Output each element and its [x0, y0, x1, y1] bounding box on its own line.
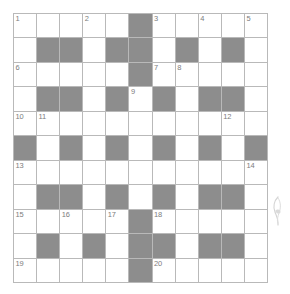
crossword-cell-r1-c0[interactable] — [14, 38, 36, 61]
crossword-cell-r0-c10[interactable]: 5 — [245, 14, 267, 37]
crossword-cell-r8-c9[interactable] — [222, 210, 244, 233]
crossword-cell-r3-c5[interactable]: 9 — [129, 87, 151, 110]
crossword-cell-r4-c5[interactable] — [129, 112, 151, 135]
crossword-cell-r6-c9[interactable] — [222, 161, 244, 184]
crossword-cell-r10-c8[interactable] — [199, 259, 221, 282]
crossword-cell-r2-c9[interactable] — [222, 63, 244, 86]
crossword-cell-r0-c0[interactable]: 1 — [14, 14, 36, 37]
crossword-cell-r6-c5[interactable] — [129, 161, 151, 184]
crossword-block-cell-r5-c4 — [106, 136, 128, 159]
crossword-cell-r6-c4[interactable] — [106, 161, 128, 184]
clue-number-16: 16 — [62, 210, 70, 219]
crossword-block-cell-r2-c5 — [129, 63, 151, 86]
crossword-cell-r6-c6[interactable] — [153, 161, 175, 184]
crossword-cell-r5-c7[interactable] — [176, 136, 198, 159]
crossword-cell-r10-c1[interactable] — [37, 259, 59, 282]
crossword-cell-r10-c9[interactable] — [222, 259, 244, 282]
crossword-cell-r8-c10[interactable] — [245, 210, 267, 233]
crossword-cell-r0-c3[interactable]: 2 — [83, 14, 105, 37]
crossword-cell-r4-c2[interactable] — [60, 112, 82, 135]
crossword-block-cell-r9-c5 — [129, 234, 151, 257]
crossword-cell-r4-c9[interactable]: 12 — [222, 112, 244, 135]
crossword-cell-r0-c4[interactable] — [106, 14, 128, 37]
clue-number-11: 11 — [39, 112, 46, 121]
crossword-cell-r4-c7[interactable] — [176, 112, 198, 135]
crossword-cell-r3-c3[interactable] — [83, 87, 105, 110]
crossword-cell-r2-c2[interactable] — [60, 63, 82, 86]
crossword-cell-r8-c0[interactable]: 15 — [14, 210, 36, 233]
crossword-cell-r5-c3[interactable] — [83, 136, 105, 159]
crossword-cell-r1-c8[interactable] — [199, 38, 221, 61]
crossword-cell-r7-c3[interactable] — [83, 185, 105, 208]
crossword-cell-r10-c2[interactable] — [60, 259, 82, 282]
crossword-cell-r2-c6[interactable]: 7 — [153, 63, 175, 86]
crossword-cell-r4-c3[interactable] — [83, 112, 105, 135]
crossword-cell-r8-c6[interactable]: 18 — [153, 210, 175, 233]
crossword-grid[interactable]: 1234567891011121314151617181920 — [13, 13, 268, 283]
crossword-cell-r7-c0[interactable] — [14, 185, 36, 208]
crossword-cell-r5-c5[interactable] — [129, 136, 151, 159]
crossword-cell-r2-c4[interactable] — [106, 63, 128, 86]
crossword-cell-r0-c7[interactable] — [176, 14, 198, 37]
crossword-cell-r10-c3[interactable] — [83, 259, 105, 282]
crossword-cell-r9-c4[interactable] — [106, 234, 128, 257]
crossword-cell-r2-c3[interactable] — [83, 63, 105, 86]
crossword-cell-r9-c2[interactable] — [60, 234, 82, 257]
crossword-cell-r1-c10[interactable] — [245, 38, 267, 61]
crossword-cell-r8-c7[interactable] — [176, 210, 198, 233]
crossword-cell-r6-c10[interactable]: 14 — [245, 161, 267, 184]
crossword-cell-r0-c1[interactable] — [37, 14, 59, 37]
crossword-cell-r7-c5[interactable] — [129, 185, 151, 208]
crossword-cell-r2-c8[interactable] — [199, 63, 221, 86]
crossword-cell-r9-c0[interactable] — [14, 234, 36, 257]
crossword-cell-r1-c6[interactable] — [153, 38, 175, 61]
crossword-cell-r3-c10[interactable] — [245, 87, 267, 110]
crossword-cell-r3-c0[interactable] — [14, 87, 36, 110]
clue-number-10: 10 — [16, 112, 24, 121]
crossword-cell-r8-c2[interactable]: 16 — [60, 210, 82, 233]
crossword-cell-r4-c1[interactable]: 11 — [37, 112, 59, 135]
crossword-cell-r7-c7[interactable] — [176, 185, 198, 208]
crossword-cell-r2-c1[interactable] — [37, 63, 59, 86]
crossword-block-cell-r0-c5 — [129, 14, 151, 37]
crossword-cell-r0-c9[interactable] — [222, 14, 244, 37]
crossword-cell-r8-c4[interactable]: 17 — [106, 210, 128, 233]
crossword-cell-r6-c2[interactable] — [60, 161, 82, 184]
crossword-cell-r4-c0[interactable]: 10 — [14, 112, 36, 135]
crossword-cell-r10-c7[interactable] — [176, 259, 198, 282]
crossword-block-cell-r5-c6 — [153, 136, 175, 159]
crossword-cell-r8-c1[interactable] — [37, 210, 59, 233]
crossword-cell-r6-c1[interactable] — [37, 161, 59, 184]
crossword-cell-r10-c6[interactable]: 20 — [153, 259, 175, 282]
crossword-cell-r6-c8[interactable] — [199, 161, 221, 184]
crossword-cell-r8-c3[interactable] — [83, 210, 105, 233]
crossword-cell-r6-c3[interactable] — [83, 161, 105, 184]
crossword-cell-r1-c3[interactable] — [83, 38, 105, 61]
crossword-cell-r4-c6[interactable] — [153, 112, 175, 135]
crossword-cell-r2-c0[interactable]: 6 — [14, 63, 36, 86]
crossword-block-cell-r1-c9 — [222, 38, 244, 61]
crossword-puzzle-page: 1234567891011121314151617181920 — [0, 0, 290, 294]
crossword-cell-r6-c0[interactable]: 13 — [14, 161, 36, 184]
crossword-cell-r3-c7[interactable] — [176, 87, 198, 110]
crossword-cell-r8-c8[interactable] — [199, 210, 221, 233]
crossword-cell-r7-c10[interactable] — [245, 185, 267, 208]
crossword-cell-r4-c10[interactable] — [245, 112, 267, 135]
crossword-block-cell-r3-c6 — [153, 87, 175, 110]
crossword-cell-r10-c0[interactable]: 19 — [14, 259, 36, 282]
crossword-cell-r9-c10[interactable] — [245, 234, 267, 257]
crossword-cell-r10-c4[interactable] — [106, 259, 128, 282]
crossword-cell-r0-c8[interactable]: 4 — [199, 14, 221, 37]
crossword-cell-r5-c1[interactable] — [37, 136, 59, 159]
crossword-cell-r4-c4[interactable] — [106, 112, 128, 135]
crossword-cell-r2-c7[interactable]: 8 — [176, 63, 198, 86]
crossword-cell-r0-c2[interactable] — [60, 14, 82, 37]
crossword-cell-r6-c7[interactable] — [176, 161, 198, 184]
crossword-cell-r5-c9[interactable] — [222, 136, 244, 159]
crossword-cell-r0-c6[interactable]: 3 — [153, 14, 175, 37]
crossword-cell-r2-c10[interactable] — [245, 63, 267, 86]
clue-number-18: 18 — [154, 210, 162, 219]
crossword-cell-r10-c10[interactable] — [245, 259, 267, 282]
crossword-cell-r9-c7[interactable] — [176, 234, 198, 257]
crossword-cell-r4-c8[interactable] — [199, 112, 221, 135]
